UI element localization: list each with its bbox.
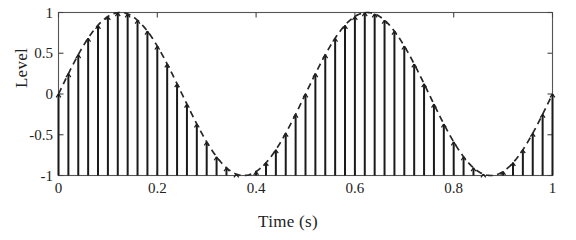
x-tick-label: 0.2 bbox=[148, 180, 167, 197]
y-tick-label: 1 bbox=[46, 4, 54, 21]
x-tick-label-group: 00.20.40.60.81 bbox=[0, 180, 576, 202]
x-tick-label: 0.8 bbox=[444, 180, 463, 197]
chart-canvas bbox=[0, 0, 576, 240]
y-tick-label: -0.5 bbox=[29, 126, 53, 143]
x-tick-label: 0 bbox=[55, 180, 63, 197]
y-tick-label: 0.5 bbox=[34, 45, 53, 62]
x-tick-label: 0.6 bbox=[346, 180, 365, 197]
x-tick-label: 0.4 bbox=[247, 180, 266, 197]
x-axis-label: Time (s) bbox=[0, 212, 576, 232]
y-tick-label: 0 bbox=[46, 86, 54, 103]
y-axis-label: Level bbox=[12, 28, 32, 108]
x-tick-label: 1 bbox=[549, 180, 557, 197]
